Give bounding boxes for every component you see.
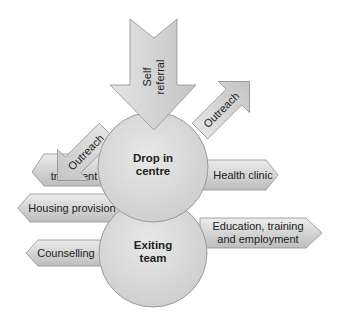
health-clinic-label: Health clinic <box>213 169 273 181</box>
counselling-arrow: Counselling <box>26 240 108 266</box>
housing-provision-arrow: Housing provision <box>18 194 120 222</box>
education-arrow: Education, training and employment <box>200 218 322 248</box>
exiting-team-label-2: team <box>140 252 167 264</box>
self-referral-arrow: Self referral <box>110 19 196 130</box>
health-clinic-arrow: Health clinic <box>198 160 278 190</box>
drop-in-centre-label-1: Drop in <box>133 152 173 164</box>
education-label-2: and employment <box>217 233 298 245</box>
housing-provision-label: Housing provision <box>28 202 115 214</box>
self-referral-label-2: referral <box>154 60 166 95</box>
exiting-team-label-1: Exiting <box>134 239 172 251</box>
drop-in-centre-label-2: centre <box>136 165 171 177</box>
diagram-canvas: Drug treatment Housing provision Counsel… <box>0 0 338 322</box>
counselling-label: Counselling <box>37 247 94 259</box>
self-referral-label-1: Self <box>141 67 153 87</box>
education-label-1: Education, training <box>212 220 303 232</box>
